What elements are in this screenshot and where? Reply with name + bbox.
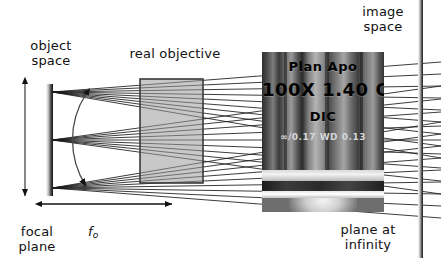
label-focal-length: fo (88, 224, 118, 243)
photo-metal-ring (262, 191, 384, 198)
photo-nose-cone (289, 198, 357, 212)
objective-lens-element (140, 79, 203, 183)
photo-dark-band (262, 181, 384, 191)
objective-engraving-line3: DIC (262, 109, 384, 124)
objective-engraving-line2: 100X 1.40 Oil (262, 79, 384, 100)
objective-photograph: Plan Apo 100X 1.40 Oil DIC ∞/0.17 WD 0.1… (262, 52, 384, 212)
label-object-space: object space (8, 38, 94, 68)
label-plane-at-infinity: plane at infinity (330, 222, 406, 252)
photo-metal-ring (262, 170, 384, 181)
object-plane-bar (46, 84, 53, 196)
label-image-space: image space (352, 4, 414, 34)
infinity-plane-bar (418, 0, 423, 258)
diagram-canvas: Plan Apo 100X 1.40 Oil DIC ∞/0.17 WD 0.1… (0, 0, 441, 270)
label-real-objective: real objective (118, 46, 232, 61)
focal-length-subscript: o (93, 230, 99, 240)
objective-engraving-line1: Plan Apo (262, 59, 384, 74)
objective-engraving-line4: ∞/0.17 WD 0.13 (262, 132, 384, 142)
label-focal-plane: focal plane (8, 224, 66, 254)
